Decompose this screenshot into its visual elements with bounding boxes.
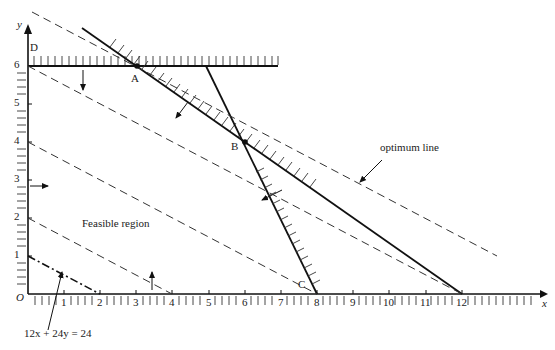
y-tick-3: 3	[14, 172, 20, 184]
x-tick-1: 1	[61, 296, 67, 308]
origin-label: O	[16, 291, 24, 303]
x-tick-10: 10	[383, 296, 394, 308]
y-axis-label: y	[17, 18, 22, 30]
y-tick-2: 2	[14, 210, 20, 222]
y-axis	[24, 24, 32, 294]
x-axis-label: x	[542, 297, 547, 309]
x-tick-6: 6	[242, 296, 248, 308]
optimum-arrow	[360, 160, 382, 182]
point-c-label: C	[298, 278, 305, 290]
point-b	[242, 139, 248, 145]
feasible-region-label: Feasible region	[82, 217, 150, 229]
constraint-y6	[28, 56, 278, 90]
objective-line-24	[28, 256, 100, 294]
x-tick-11: 11	[420, 296, 431, 308]
x-tick-3: 3	[133, 296, 139, 308]
x-tick-9: 9	[350, 296, 356, 308]
y-tick-4: 4	[14, 134, 20, 146]
y-tick-5: 5	[14, 96, 20, 108]
point-a-label: A	[131, 72, 139, 84]
x-tick-8: 8	[314, 296, 320, 308]
point-b-label: B	[231, 140, 238, 152]
x-tick-7: 7	[278, 296, 284, 308]
x-tick-5: 5	[206, 296, 212, 308]
x-tick-2: 2	[97, 296, 103, 308]
x-axis	[28, 290, 548, 298]
point-d-label: D	[30, 41, 38, 53]
objective-label: 12x + 24y = 24	[24, 327, 91, 339]
x-tick-12: 12	[456, 296, 467, 308]
optimum-line-label: optimum line	[380, 141, 439, 153]
x-tick-4: 4	[169, 296, 175, 308]
objective-arrow	[48, 272, 62, 330]
y-tick-6: 6	[14, 58, 20, 70]
y-tick-1: 1	[14, 248, 20, 260]
point-a	[134, 63, 140, 69]
